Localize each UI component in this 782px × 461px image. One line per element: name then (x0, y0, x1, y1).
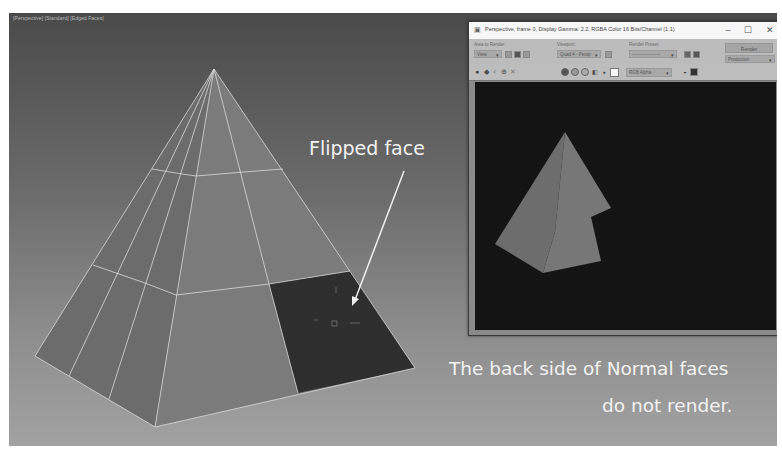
rendered-frame-window[interactable]: ▣ Perspective, frame 0, Display Gamma: 2… (468, 21, 777, 336)
flipped-face-arrow (352, 171, 404, 306)
maximize-button[interactable]: ☐ (741, 24, 755, 36)
render-preset-dropdown[interactable]: ------------------- (629, 50, 677, 58)
clear-icon[interactable]: ✕ (509, 68, 517, 76)
green-channel-toggle[interactable] (571, 68, 579, 76)
backside-label-line2: do not render. (602, 395, 732, 416)
split-view-icon[interactable]: ◒ (681, 68, 689, 76)
production-dropdown[interactable]: Production (725, 55, 775, 63)
lock-icon[interactable] (514, 51, 521, 58)
lock-viewport-icon[interactable] (605, 51, 612, 58)
render-canvas[interactable] (475, 82, 776, 330)
minimize-button[interactable]: – (721, 24, 735, 36)
render-preset-value: ------------------- (632, 52, 660, 57)
color-swatch[interactable] (610, 68, 619, 77)
area-to-render-dropdown[interactable]: View (474, 50, 502, 58)
window-titlebar[interactable]: ▣ Perspective, frame 0, Display Gamma: 2… (469, 22, 777, 39)
viewport-value: Quad 4 - Persp (560, 52, 591, 57)
viewport-dropdown[interactable]: Quad 4 - Persp (557, 50, 601, 58)
rendered-pyramid (475, 82, 776, 330)
toggle-ui-icon[interactable] (690, 68, 698, 76)
flipped-face-label: Flipped face (309, 137, 425, 159)
backside-label-line1: The back side of Normal faces (449, 358, 729, 379)
red-channel-toggle[interactable] (561, 68, 569, 76)
production-value: Production (728, 57, 750, 62)
clone-icon[interactable]: ◐ (491, 68, 499, 76)
monochrome-icon[interactable]: ● (600, 68, 608, 76)
alpha-channel-icon[interactable]: ◧ (591, 68, 599, 76)
close-button[interactable]: ✕ (763, 24, 777, 36)
environment-effects-icon[interactable] (693, 51, 700, 58)
window-title: Perspective, frame 0, Display Gamma: 2.2… (485, 26, 675, 32)
auto-region-icon[interactable] (523, 51, 530, 58)
edit-region-icon[interactable] (505, 51, 512, 58)
perspective-viewport[interactable]: [Perspective] [Standard] [Edged Faces] (9, 13, 777, 446)
display-toolbar: ● ◆ ◐ ⊕ ✕ ◧ ● RGB Alpha ◒ (469, 65, 777, 81)
channel-value: RGB Alpha (629, 70, 651, 75)
app-icon: ▣ (474, 26, 482, 34)
save-icon[interactable]: ● (473, 68, 481, 76)
blue-channel-toggle[interactable] (581, 68, 589, 76)
area-to-render-value: View (477, 52, 487, 57)
channel-dropdown[interactable]: RGB Alpha (626, 68, 672, 77)
copy-icon[interactable]: ◆ (482, 68, 490, 76)
viewport-label: Viewport: (557, 42, 576, 47)
render-settings-toolbar: Area to Render: View Viewport: Quad 4 - … (469, 39, 777, 65)
render-button[interactable]: Render (725, 43, 773, 53)
area-to-render-label: Area to Render: (474, 42, 506, 47)
render-preset-label: Render Preset: (629, 42, 659, 47)
render-setup-icon[interactable] (684, 51, 691, 58)
print-icon[interactable]: ⊕ (500, 68, 508, 76)
